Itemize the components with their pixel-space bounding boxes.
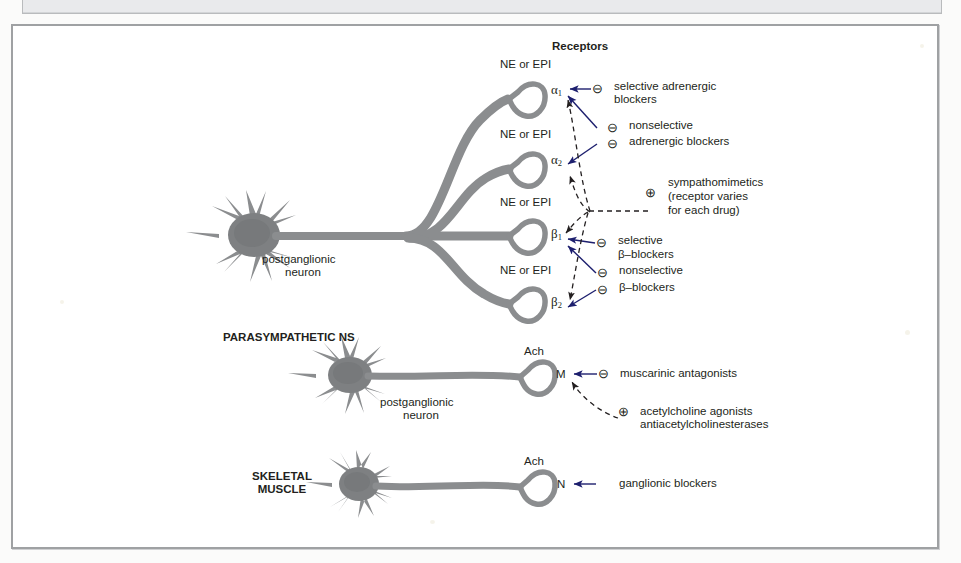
drug-label-sympathomimetics-line2: (receptor varies — [668, 190, 748, 203]
minus-sign-icon: ⊖ — [597, 266, 608, 279]
receptor-label-beta2: β2 — [551, 294, 562, 310]
drug-label-acetylcholine-agonists-line1: acetylcholine agonists — [640, 405, 753, 418]
paper-speck — [60, 300, 64, 304]
drug-label-selective-beta-blockers-line2: β–blockers — [618, 248, 674, 261]
paper-speck — [920, 44, 924, 48]
drug-label-nonselective-beta-blockers-line1: nonselective — [619, 264, 683, 277]
drug-label-sympathomimetics-line3: for each drug) — [668, 204, 740, 217]
drug-label-nonselective-adrenergic-blockers-line1: nonselective — [629, 119, 693, 132]
minus-sign-icon: ⊖ — [607, 121, 618, 134]
transmitter-label-nicotinic: Ach — [524, 455, 544, 468]
minus-sign-icon: ⊖ — [592, 82, 603, 95]
drug-label-selective-adrenergic-blockers-line2: blockers — [614, 93, 657, 106]
drug-label-acetylcholine-agonists-line2: antiacetylcholinesterases — [640, 418, 769, 431]
transmitter-label-muscarinic: Ach — [524, 345, 544, 358]
receptor-label-nicotinic: N — [557, 478, 565, 491]
section-label-skeletal-line1: SKELETAL — [238, 470, 326, 483]
transmitter-label-beta2: NE or EPI — [500, 264, 551, 277]
section-label-parasympathetic: PARASYMPATHETIC NS — [223, 331, 355, 344]
paper-speck — [905, 330, 910, 335]
drug-label-ganglionic-blockers: ganglionic blockers — [619, 477, 717, 490]
scan-top-bar — [22, 0, 942, 14]
receptor-label-alpha1: α1 — [551, 82, 562, 98]
drug-label-nonselective-beta-blockers-line2: β–blockers — [619, 281, 675, 294]
neuron-label-parasympathetic-line2: neuron — [403, 409, 439, 422]
transmitter-label-alpha2: NE or EPI — [500, 128, 551, 141]
neuron-label-parasympathetic-line1: postganglionic — [380, 396, 454, 409]
drug-label-selective-adrenergic-blockers-line1: selective adrenergic — [614, 80, 716, 93]
drug-label-muscarinic-antagonists: muscarinic antagonists — [620, 367, 737, 380]
minus-sign-icon: ⊖ — [596, 236, 607, 249]
plus-sign-icon: ⊕ — [645, 186, 656, 199]
drug-label-selective-beta-blockers-line1: selective — [618, 234, 663, 247]
section-label-skeletal-line2: MUSCLE — [238, 483, 326, 496]
drug-label-nonselective-adrenergic-blockers-line2: adrenergic blockers — [629, 135, 729, 148]
minus-sign-icon: ⊖ — [607, 137, 618, 150]
page-title: Receptors — [552, 40, 608, 53]
receptor-label-alpha2: α2 — [551, 152, 562, 168]
minus-sign-icon: ⊖ — [598, 367, 609, 380]
receptor-label-muscarinic: M — [556, 368, 566, 381]
transmitter-label-beta1: NE or EPI — [500, 196, 551, 209]
transmitter-label-alpha1: NE or EPI — [500, 58, 551, 71]
drug-label-sympathomimetics-line1: sympathomimetics — [668, 176, 763, 189]
receptor-label-beta1: β1 — [551, 226, 562, 242]
neuron-label-sympathetic-line1: postganglionic — [262, 253, 336, 266]
paper-speck — [430, 520, 435, 524]
minus-sign-icon: ⊖ — [597, 283, 608, 296]
neuron-label-sympathetic-line2: neuron — [285, 266, 321, 279]
plus-sign-icon: ⊕ — [618, 405, 629, 418]
figure-frame — [11, 24, 939, 549]
